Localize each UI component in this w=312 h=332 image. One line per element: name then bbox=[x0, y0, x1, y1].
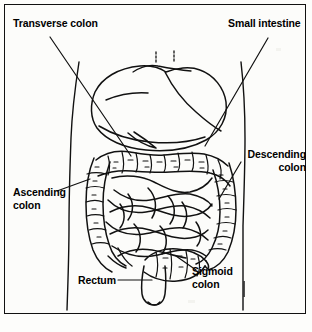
scan-artifact-1 bbox=[243, 281, 245, 297]
figure-root: Transverse colon Small intestine Descend… bbox=[0, 0, 312, 332]
label-small-intestine: Small intestine bbox=[228, 17, 301, 30]
scan-artifact-3 bbox=[188, 300, 195, 303]
label-descending-colon: Descending colon bbox=[244, 148, 306, 173]
label-rectum: Rectum bbox=[78, 274, 116, 287]
label-ascending-colon: Ascending colon bbox=[13, 186, 66, 211]
label-sigmoid-colon: Sigmoid colon bbox=[192, 265, 233, 290]
label-transverse-colon: Transverse colon bbox=[13, 17, 98, 30]
scan-artifact-2 bbox=[276, 48, 281, 51]
